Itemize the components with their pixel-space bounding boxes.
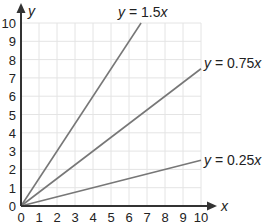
label-y-1.5x: y = 1.5x — [117, 4, 168, 20]
y-axis-label: y — [27, 3, 36, 19]
y-tick-label: 6 — [9, 89, 16, 104]
y-tick-label: 7 — [9, 71, 16, 86]
x-tick-label: 8 — [161, 210, 168, 224]
x-tick-label: 7 — [143, 210, 150, 224]
y-tick-label: 1 — [9, 181, 16, 196]
x-axis-arrow-icon — [207, 202, 217, 211]
y-tick-label: 8 — [9, 53, 16, 68]
y-tick-label: 3 — [9, 144, 16, 159]
x-tick-label: 2 — [53, 210, 60, 224]
y-tick-label: 0 — [9, 199, 16, 214]
tick-labels: 012345678910012345678910 — [2, 16, 209, 224]
x-axis-label: x — [220, 198, 229, 214]
x-tick-label: 1 — [35, 210, 42, 224]
label-y-0.75x: y = 0.75x — [203, 55, 262, 71]
y-tick-label: 4 — [9, 126, 16, 141]
grid — [21, 23, 201, 206]
x-tick-label: 4 — [89, 210, 96, 224]
y-tick-label: 9 — [9, 34, 16, 49]
axes — [17, 3, 218, 211]
x-tick-label: 5 — [107, 210, 114, 224]
y-tick-label: 10 — [2, 16, 16, 31]
x-tick-label: 6 — [125, 210, 132, 224]
x-tick-label: 10 — [194, 210, 208, 224]
x-tick-label: 9 — [179, 210, 186, 224]
y-axis-arrow-icon — [17, 3, 26, 13]
x-tick-label: 0 — [17, 210, 24, 224]
label-y-0.25x: y = 0.25x — [203, 152, 262, 168]
chart-canvas: 012345678910012345678910 y x y = 1.5x y … — [0, 0, 264, 224]
x-tick-label: 3 — [71, 210, 78, 224]
y-tick-label: 5 — [9, 108, 16, 123]
y-tick-label: 2 — [9, 162, 16, 177]
